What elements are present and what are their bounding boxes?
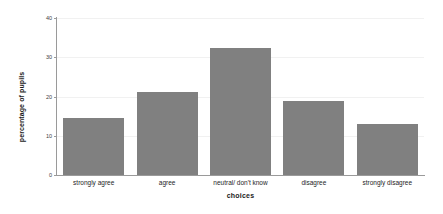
x-tick-label: strongly agree — [57, 178, 130, 188]
x-axis-title: choices — [57, 192, 424, 199]
y-tick-label: 40 — [46, 14, 52, 22]
y-tick-0: 0 — [0, 175, 57, 176]
y-tick-label: 30 — [46, 53, 52, 61]
bar — [357, 124, 418, 175]
x-tick-label: disagree — [277, 178, 350, 188]
plot-area — [57, 18, 424, 175]
gridline-y-0 — [57, 175, 424, 176]
bar — [137, 92, 198, 175]
bar-chart: percentage of pupils 010203040 strongly … — [0, 0, 443, 214]
y-tick-20: 20 — [0, 97, 57, 98]
bar — [63, 118, 124, 175]
x-tick-label: agree — [130, 178, 203, 188]
y-axis-ticks: 010203040 — [0, 0, 57, 214]
y-tick-30: 30 — [0, 57, 57, 58]
gridline-y-40 — [57, 18, 424, 19]
y-tick-label: 0 — [49, 171, 52, 179]
x-tick-label: neutral/ don't know — [204, 178, 277, 188]
y-tick-10: 10 — [0, 136, 57, 137]
y-tick-label: 20 — [46, 93, 52, 101]
y-tick-label: 10 — [46, 132, 52, 140]
bar — [283, 101, 344, 175]
x-axis-tick-labels: strongly agreeagreeneutral/ don't knowdi… — [57, 178, 424, 192]
x-tick-label: strongly disagree — [351, 178, 424, 188]
y-tick-40: 40 — [0, 18, 57, 19]
bar — [210, 48, 271, 175]
